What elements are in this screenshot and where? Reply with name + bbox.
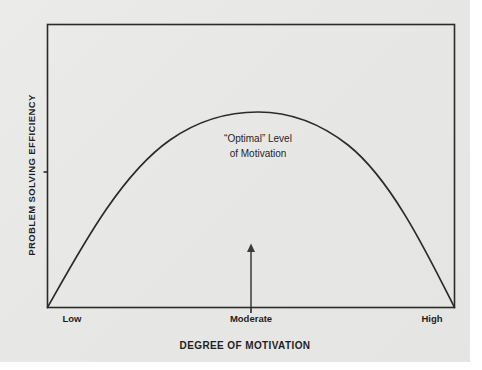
optimal-arrow-head: [247, 244, 255, 253]
x-tick-label-low: Low: [63, 313, 82, 324]
annotation-line-1: “Optimal” Level: [224, 131, 292, 146]
y-axis-title: PROBLEM SOLVING EFFICIENCY: [26, 94, 37, 256]
x-tick-label-high: High: [421, 313, 442, 324]
x-axis-title: DEGREE OF MOTIVATION: [180, 340, 311, 351]
annotation-line-2: of Motivation: [224, 146, 292, 161]
optimal-level-annotation: “Optimal” Level of Motivation: [224, 131, 292, 161]
figure-container: PROBLEM SOLVING EFFICIENCY DEGREE OF MOT…: [0, 0, 482, 370]
x-tick-label-moderate: Moderate: [230, 313, 272, 324]
